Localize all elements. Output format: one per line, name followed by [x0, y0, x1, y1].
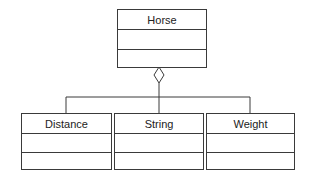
class-name: Distance [22, 114, 111, 133]
attributes-compartment [118, 29, 206, 49]
class-horse[interactable]: Horse [117, 9, 207, 68]
class-name: String [115, 114, 203, 133]
operations-compartment [115, 152, 203, 169]
attributes-compartment [207, 133, 294, 152]
class-string[interactable]: String [114, 113, 204, 170]
attributes-compartment [22, 133, 111, 152]
operations-compartment [207, 152, 294, 169]
operations-compartment [118, 49, 206, 67]
class-name: Horse [118, 10, 206, 29]
operations-compartment [22, 152, 111, 169]
class-weight[interactable]: Weight [206, 113, 295, 170]
class-name: Weight [207, 114, 294, 133]
aggregation-diamond-icon [154, 67, 164, 83]
class-distance[interactable]: Distance [21, 113, 112, 170]
attributes-compartment [115, 133, 203, 152]
